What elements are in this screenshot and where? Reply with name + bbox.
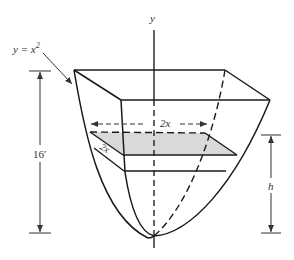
right-top-diagonal [225, 70, 270, 100]
trough-diagram: y 2x 2x y = x2 16′ h [0, 0, 294, 260]
curve-label: y = x2 [12, 41, 40, 55]
width-label-top: 2x [160, 117, 171, 129]
height-label: h [268, 180, 274, 192]
shaded-slice [90, 132, 237, 155]
depth-label: 16′ [33, 148, 46, 160]
curve-pointer-arrow [43, 53, 72, 84]
left-top-diagonal [74, 70, 121, 100]
back-parabola-bottom [148, 236, 154, 238]
y-axis-label: y [149, 12, 155, 24]
